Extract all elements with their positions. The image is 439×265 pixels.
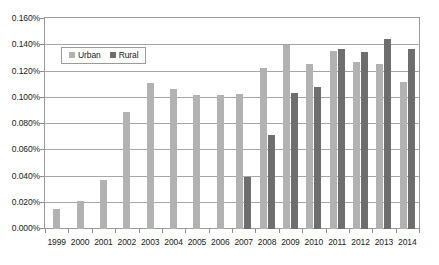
x-axis-tick (209, 229, 210, 233)
x-axis-tick (396, 229, 397, 233)
legend-swatch-urban-icon (69, 52, 75, 58)
y-axis-tick (40, 202, 44, 203)
bar-urban-2009 (283, 45, 290, 229)
y-axis-tick (40, 123, 44, 124)
x-axis-tick-label: 2000 (71, 238, 90, 247)
x-axis-tick (349, 229, 350, 233)
legend-entry-urban[interactable]: Urban (69, 51, 101, 60)
y-axis-tick (40, 71, 44, 72)
x-axis-tick-label: 2011 (328, 238, 346, 247)
x-axis-tick (185, 229, 186, 233)
chart-legend: Urban Rural (61, 47, 146, 64)
bar-urban-2012 (353, 62, 360, 229)
x-axis-tick-label: 2006 (211, 238, 230, 247)
bar-urban-2013 (376, 64, 383, 229)
y-axis-tick-label: 0.080% (0, 119, 40, 128)
bar-rural-2010 (314, 87, 321, 229)
legend-label-urban: Urban (78, 51, 101, 60)
x-axis-tick (326, 229, 327, 233)
bar-urban-2011 (330, 51, 337, 230)
bar-chart: 0.000%0.020%0.040%0.060%0.080%0.100%0.12… (0, 0, 439, 265)
y-axis-tick (40, 44, 44, 45)
y-axis-tick-label: 0.140% (0, 40, 40, 49)
x-axis-tick-label: 2002 (118, 238, 137, 247)
x-axis-tick (162, 229, 163, 233)
y-axis-tick (40, 97, 44, 98)
bar-rural-2007 (244, 177, 251, 230)
x-axis-tick (419, 229, 420, 233)
x-axis-tick (115, 229, 116, 233)
x-axis-tick-label: 2013 (375, 238, 394, 247)
bar-urban-2006 (217, 95, 224, 229)
x-axis-tick (139, 229, 140, 233)
y-axis-tick-label: 0.100% (0, 93, 40, 102)
y-axis-tick-label: 0.060% (0, 145, 40, 154)
bar-urban-2000 (77, 201, 84, 229)
bar-rural-2011 (338, 49, 345, 229)
y-axis-tick-label: 0.020% (0, 198, 40, 207)
x-axis-tick (255, 229, 256, 233)
x-axis-tick-label: 2007 (234, 238, 253, 247)
x-axis-tick-label: 1999 (47, 238, 66, 247)
y-axis-tick (40, 149, 44, 150)
legend-swatch-rural-icon (110, 52, 116, 58)
bar-urban-2003 (147, 83, 154, 229)
x-axis-tick-label: 2014 (398, 238, 417, 247)
bar-urban-2010 (306, 64, 313, 229)
x-axis-tick-label: 2001 (94, 238, 113, 247)
x-axis-tick-label: 2004 (164, 238, 183, 247)
x-axis-tick-label: 2008 (258, 238, 277, 247)
x-axis-tick-label: 2005 (188, 238, 207, 247)
x-axis-tick-label: 2009 (281, 238, 300, 247)
bar-urban-2014 (400, 82, 407, 229)
y-axis-labels: 0.000%0.020%0.040%0.060%0.080%0.100%0.12… (0, 0, 40, 265)
bar-rural-2014 (408, 49, 415, 229)
bar-urban-2008 (260, 68, 267, 229)
x-axis-tick (302, 229, 303, 233)
y-axis-tick-label: 0.120% (0, 66, 40, 75)
bar-rural-2009 (291, 93, 298, 230)
bar-urban-2005 (193, 95, 200, 229)
y-axis-tick (40, 18, 44, 19)
y-axis-tick-label: 0.000% (0, 224, 40, 233)
x-axis-tick-label: 2010 (305, 238, 324, 247)
bar-rural-2012 (361, 52, 368, 229)
bar-urban-1999 (53, 209, 60, 229)
x-axis-tick (68, 229, 69, 233)
bar-rural-2008 (268, 135, 275, 230)
bar-urban-2004 (170, 89, 177, 229)
y-axis-tick (40, 228, 44, 229)
x-axis-tick-label: 2012 (351, 238, 370, 247)
x-axis-tick (45, 229, 46, 233)
x-axis-tick (92, 229, 93, 233)
x-axis-tick-label: 2003 (141, 238, 160, 247)
bar-urban-2002 (123, 112, 130, 229)
legend-label-rural: Rural (119, 51, 139, 60)
bar-urban-2001 (100, 180, 107, 229)
bar-rural-2013 (384, 39, 391, 229)
legend-entry-rural[interactable]: Rural (110, 51, 139, 60)
bar-urban-2007 (236, 94, 243, 229)
x-axis-tick (232, 229, 233, 233)
x-axis-tick (372, 229, 373, 233)
y-axis-tick-label: 0.040% (0, 171, 40, 180)
x-axis-tick (279, 229, 280, 233)
y-axis-tick (40, 176, 44, 177)
y-axis-tick-label: 0.160% (0, 14, 40, 23)
